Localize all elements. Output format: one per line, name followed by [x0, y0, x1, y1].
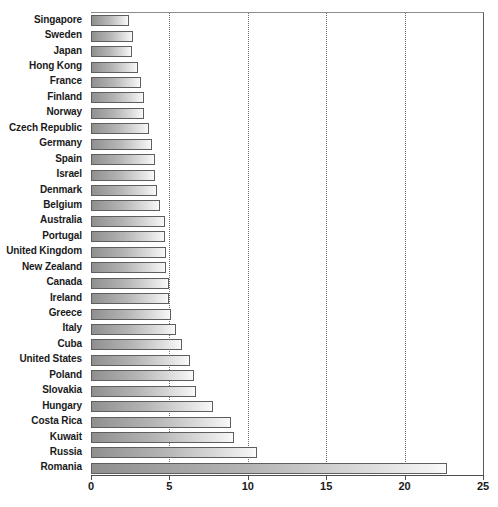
x-axis-tick-label: 20: [398, 481, 410, 492]
bar: [91, 247, 166, 258]
category-label: Hong Kong: [0, 58, 86, 73]
bar: [91, 309, 171, 320]
bar-row: [91, 291, 483, 306]
bar: [91, 293, 169, 304]
bar-chart: SingaporeSwedenJapanHong KongFranceFinla…: [0, 0, 498, 507]
category-label: Belgium: [0, 197, 86, 212]
bar: [91, 139, 152, 150]
bar: [91, 401, 213, 412]
x-axis-tick-label: 15: [320, 481, 332, 492]
bar-row: [91, 44, 483, 59]
bar-row: [91, 137, 483, 152]
bar-row: [91, 183, 483, 198]
x-axis-tick-label: 0: [88, 481, 94, 492]
bar: [91, 216, 165, 227]
bar: [91, 170, 155, 181]
category-label: Romania: [0, 460, 86, 475]
bar-row: [91, 368, 483, 383]
bar: [91, 77, 141, 88]
bar-row: [91, 353, 483, 368]
category-label: Spain: [0, 151, 86, 166]
category-label: Ireland: [0, 290, 86, 305]
category-label: Costa Rica: [0, 413, 86, 428]
bar: [91, 154, 155, 165]
bar: [91, 262, 166, 273]
category-label: Russia: [0, 444, 86, 459]
category-label: United States: [0, 352, 86, 367]
bar-row: [91, 106, 483, 121]
bar: [91, 62, 138, 73]
bar-row: [91, 229, 483, 244]
category-label: Sweden: [0, 27, 86, 42]
category-label: Italy: [0, 321, 86, 336]
bar-row: [91, 384, 483, 399]
category-label: France: [0, 74, 86, 89]
bar-row: [91, 337, 483, 352]
bar: [91, 185, 157, 196]
bar-row: [91, 275, 483, 290]
x-axis-tick-label: 5: [166, 481, 172, 492]
bar: [91, 46, 132, 57]
category-label: United Kingdom: [0, 244, 86, 259]
bar: [91, 447, 257, 458]
bar: [91, 123, 149, 134]
bar-row: [91, 322, 483, 337]
bar-row: [91, 90, 483, 105]
bar-row: [91, 306, 483, 321]
category-label: Slovakia: [0, 383, 86, 398]
bar: [91, 108, 144, 119]
category-label: Norway: [0, 105, 86, 120]
category-label: Germany: [0, 136, 86, 151]
category-label-column: SingaporeSwedenJapanHong KongFranceFinla…: [0, 12, 86, 475]
category-label: Greece: [0, 305, 86, 320]
bar-row: [91, 461, 483, 476]
category-label: Canada: [0, 274, 86, 289]
bar: [91, 324, 176, 335]
bar-row: [91, 430, 483, 445]
bar: [91, 417, 231, 428]
bar-row: [91, 414, 483, 429]
plot-area: [91, 12, 484, 476]
category-label: Australia: [0, 213, 86, 228]
bar: [91, 92, 144, 103]
category-label: Finland: [0, 89, 86, 104]
category-label: Czech Republic: [0, 120, 86, 135]
category-label: Portugal: [0, 228, 86, 243]
category-label: Kuwait: [0, 429, 86, 444]
category-label: Singapore: [0, 12, 86, 27]
bar-row: [91, 198, 483, 213]
x-axis-tick-label: 10: [242, 481, 254, 492]
bar: [91, 231, 165, 242]
x-axis-tick-label: 25: [477, 481, 489, 492]
bar-row: [91, 28, 483, 43]
bar: [91, 31, 133, 42]
bar: [91, 463, 447, 474]
category-label: Japan: [0, 43, 86, 58]
category-label: Israel: [0, 166, 86, 181]
bar: [91, 278, 169, 289]
category-label: Poland: [0, 367, 86, 382]
bar: [91, 339, 182, 350]
category-label: New Zealand: [0, 259, 86, 274]
category-label: Denmark: [0, 182, 86, 197]
bar: [91, 432, 234, 443]
bar-row: [91, 152, 483, 167]
bar-series: [91, 13, 483, 476]
bar: [91, 15, 129, 26]
bar-row: [91, 399, 483, 414]
bar: [91, 355, 190, 366]
category-label: Hungary: [0, 398, 86, 413]
bar: [91, 386, 196, 397]
bar-row: [91, 245, 483, 260]
bar-row: [91, 260, 483, 275]
bar: [91, 370, 194, 381]
bar-row: [91, 121, 483, 136]
bar-row: [91, 13, 483, 28]
bar-row: [91, 214, 483, 229]
bar-row: [91, 445, 483, 460]
bar-row: [91, 167, 483, 182]
category-label: Cuba: [0, 336, 86, 351]
x-axis-ticks: 0510152025: [0, 475, 498, 497]
bar: [91, 200, 160, 211]
bar-row: [91, 75, 483, 90]
